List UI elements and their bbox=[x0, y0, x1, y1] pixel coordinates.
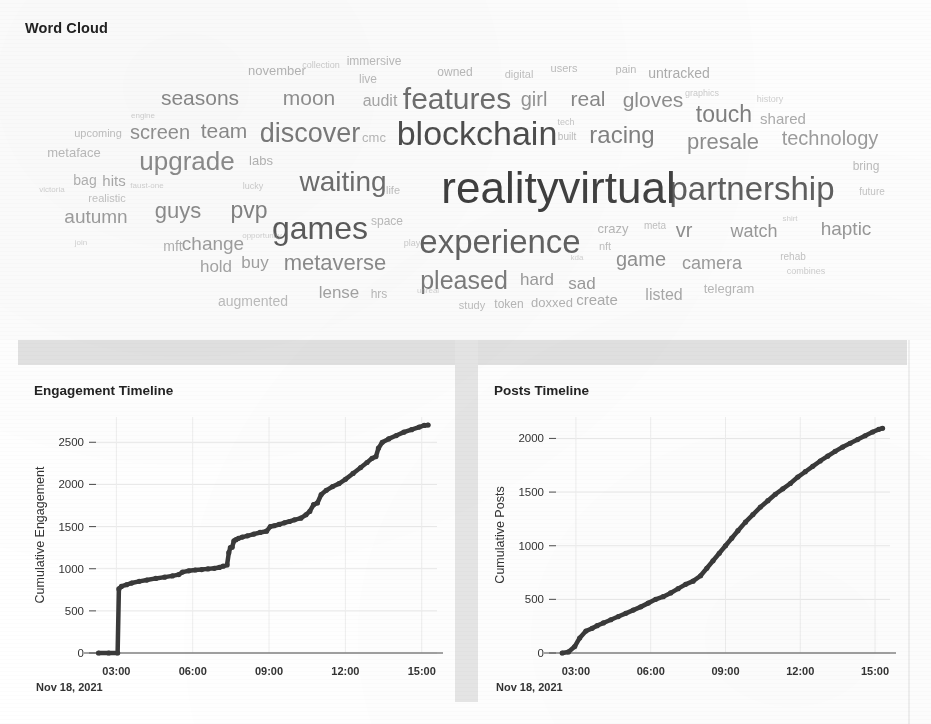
word-cloud-term: experience bbox=[419, 225, 580, 258]
word-cloud-term: tech bbox=[557, 118, 574, 127]
series-marker bbox=[729, 536, 734, 541]
y-tick-label: 500 bbox=[525, 593, 544, 605]
series-marker bbox=[750, 512, 755, 517]
series-marker bbox=[115, 650, 120, 655]
series-marker bbox=[780, 486, 785, 491]
word-cloud-term: study bbox=[459, 300, 485, 311]
word-cloud-term: kda bbox=[571, 254, 584, 262]
word-cloud-term: lucky bbox=[243, 182, 264, 191]
word-cloud-term: change bbox=[182, 234, 244, 253]
series-marker bbox=[758, 505, 763, 510]
word-cloud-term: create bbox=[576, 292, 618, 307]
word-cloud-term: bag bbox=[73, 173, 96, 187]
series-marker bbox=[307, 509, 312, 514]
series-marker bbox=[124, 582, 129, 587]
word-cloud-term: touch bbox=[696, 103, 752, 126]
series-marker bbox=[376, 446, 381, 451]
word-cloud-term: space bbox=[371, 215, 403, 227]
series-marker bbox=[386, 436, 391, 441]
series-marker bbox=[394, 433, 399, 438]
word-cloud-term: lense bbox=[319, 284, 360, 301]
word-cloud-term: augmented bbox=[218, 294, 288, 308]
series-marker bbox=[880, 426, 885, 431]
word-cloud-term: mft bbox=[163, 239, 182, 253]
series-marker bbox=[336, 481, 341, 486]
series-marker bbox=[230, 545, 235, 550]
series-marker bbox=[324, 488, 329, 493]
series-marker bbox=[773, 492, 778, 497]
word-cloud-term: collection bbox=[302, 61, 340, 70]
series-marker bbox=[683, 582, 688, 587]
x-tick-label: 03:00 bbox=[102, 665, 130, 677]
series-marker bbox=[818, 458, 823, 463]
word-cloud-term: victoria bbox=[39, 186, 64, 194]
word-cloud-term: untracked bbox=[648, 66, 709, 80]
x-tick-label: 12:00 bbox=[331, 665, 359, 677]
series-marker bbox=[795, 474, 800, 479]
series-marker bbox=[638, 604, 643, 609]
word-cloud-term: autumn bbox=[64, 207, 127, 226]
series-marker bbox=[373, 454, 378, 459]
y-tick-label: 0 bbox=[538, 647, 544, 659]
series-marker bbox=[199, 567, 204, 572]
series-marker bbox=[186, 568, 191, 573]
word-cloud-term: hold bbox=[200, 258, 232, 275]
series-marker bbox=[282, 520, 287, 525]
word-cloud-title: Word Cloud bbox=[25, 20, 108, 36]
series-marker bbox=[315, 500, 320, 505]
word-cloud-term: waiting bbox=[299, 168, 386, 196]
word-cloud-term: hits bbox=[102, 173, 125, 188]
word-cloud-term: graphics bbox=[685, 89, 719, 98]
x-tick-label: 09:00 bbox=[711, 665, 739, 677]
series-marker bbox=[803, 469, 808, 474]
series-marker bbox=[595, 623, 600, 628]
word-cloud-term: digital bbox=[505, 69, 534, 80]
series-marker bbox=[224, 562, 229, 567]
word-cloud-term: labs bbox=[249, 154, 273, 167]
x-tick-label: 12:00 bbox=[786, 665, 814, 677]
word-cloud-term: shared bbox=[760, 111, 806, 126]
series-marker bbox=[170, 573, 175, 578]
word-cloud-term: partnership bbox=[669, 172, 834, 205]
series-marker bbox=[162, 575, 167, 580]
y-tick-label: 0 bbox=[78, 647, 84, 659]
series-marker bbox=[180, 569, 185, 574]
x-tick-label: 03:00 bbox=[562, 665, 590, 677]
posts-timeline-card: Posts Timeline 050010001500200003:0006:0… bbox=[478, 365, 908, 715]
series-marker bbox=[704, 566, 709, 571]
word-cloud-term: camera bbox=[682, 254, 742, 272]
series-marker bbox=[226, 550, 231, 555]
y-tick-label: 500 bbox=[65, 605, 84, 617]
word-cloud-term: haptic bbox=[821, 219, 872, 238]
word-cloud-term: hard bbox=[520, 271, 554, 288]
series-marker bbox=[144, 577, 149, 582]
word-cloud-term: watch bbox=[730, 222, 777, 240]
y-tick-label: 1500 bbox=[58, 521, 84, 533]
series-marker bbox=[409, 427, 414, 432]
word-cloud-term: upgrade bbox=[139, 148, 234, 174]
series-marker bbox=[350, 471, 355, 476]
y-axis-title: Cumulative Engagement bbox=[33, 466, 47, 603]
word-cloud-term: telegram bbox=[704, 282, 755, 295]
series-marker bbox=[560, 650, 565, 655]
series-marker bbox=[287, 519, 292, 524]
word-cloud-term: reality bbox=[441, 166, 558, 210]
word-cloud-term: guys bbox=[155, 200, 201, 222]
word-cloud-term: opportunity bbox=[242, 232, 282, 240]
engagement-plot-svg: 0500100015002000250003:0006:0009:0012:00… bbox=[18, 365, 455, 715]
word-cloud-term: vr bbox=[676, 220, 693, 240]
series-marker bbox=[690, 579, 695, 584]
series-marker bbox=[840, 444, 845, 449]
word-cloud-term: buy bbox=[241, 254, 268, 271]
word-cloud-term: built bbox=[558, 132, 576, 142]
series-marker bbox=[862, 433, 867, 438]
series-marker bbox=[825, 454, 830, 459]
word-cloud-term: cmc bbox=[362, 131, 386, 144]
y-tick-label: 1500 bbox=[518, 486, 544, 498]
series-marker bbox=[264, 529, 269, 534]
word-cloud-term: metaface bbox=[47, 146, 100, 159]
series-marker bbox=[833, 449, 838, 454]
word-cloud-term: owned bbox=[437, 66, 472, 78]
series-marker bbox=[661, 594, 666, 599]
series-marker bbox=[258, 530, 263, 535]
